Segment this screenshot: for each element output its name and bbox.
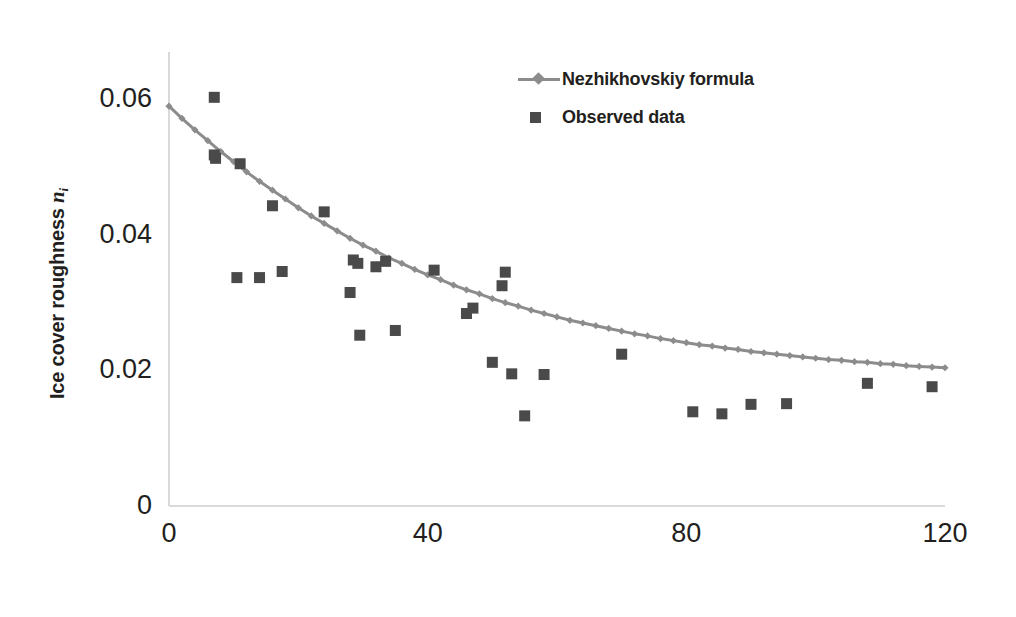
formula-diamond-marker: [515, 302, 522, 309]
legend-square-marker-icon: [516, 107, 562, 127]
observed-data-point: [616, 349, 627, 360]
formula-diamond-marker: [786, 352, 793, 359]
formula-diamond-marker: [812, 355, 819, 362]
formula-diamond-marker: [760, 349, 767, 356]
formula-curve: [169, 106, 945, 368]
formula-diamond-marker: [864, 359, 871, 366]
formula-diamond-marker: [605, 325, 612, 332]
observed-data-point: [506, 368, 517, 379]
observed-data-point: [370, 261, 381, 272]
formula-diamond-marker: [553, 313, 560, 320]
observed-data-point: [746, 399, 757, 410]
legend-item-nezhikhovskiy-formula: Nezhikhovskiy formula: [516, 60, 856, 98]
observed-data-point: [209, 92, 220, 103]
observed-data-point: [354, 330, 365, 341]
formula-diamond-marker: [941, 364, 948, 371]
formula-diamond-marker: [631, 330, 638, 337]
series-nezhikhovskiy-formula: [165, 103, 948, 372]
legend-label-nezhikhovskiy-formula: Nezhikhovskiy formula: [562, 69, 754, 90]
formula-diamond-marker: [903, 362, 910, 369]
formula-diamond-marker: [528, 307, 535, 314]
observed-data-point: [390, 325, 401, 336]
formula-diamond-marker: [644, 332, 651, 339]
formula-diamond-marker: [502, 299, 509, 306]
formula-diamond-marker: [579, 319, 586, 326]
formula-diamond-marker: [734, 346, 741, 353]
formula-diamond-marker: [825, 356, 832, 363]
observed-data-point: [210, 153, 221, 164]
observed-data-point: [716, 408, 727, 419]
observed-data-point: [487, 357, 498, 368]
observed-data-point: [231, 272, 242, 283]
observed-data-point: [927, 381, 938, 392]
observed-data-point: [467, 303, 478, 314]
series-observed-data: [209, 92, 938, 422]
legend-item-observed-data: Observed data: [516, 98, 856, 136]
formula-diamond-marker: [722, 344, 729, 351]
formula-diamond-marker: [670, 337, 677, 344]
formula-diamond-marker: [657, 335, 664, 342]
observed-data-point: [235, 158, 246, 169]
formula-diamond-marker: [696, 341, 703, 348]
observed-data-point: [781, 398, 792, 409]
formula-diamond-marker: [683, 339, 690, 346]
formula-diamond-marker: [592, 322, 599, 329]
formula-diamond-marker: [618, 328, 625, 335]
observed-data-point: [519, 410, 530, 421]
formula-diamond-marker: [916, 363, 923, 370]
observed-data-point: [267, 200, 278, 211]
observed-data-point: [352, 258, 363, 269]
observed-data-point: [862, 378, 873, 389]
chart-figure: Ice cover roughness ni 00.020.040.06 040…: [0, 0, 1016, 617]
formula-diamond-marker: [773, 351, 780, 358]
legend-label-observed-data: Observed data: [562, 107, 684, 128]
observed-data-point: [429, 265, 440, 276]
formula-diamond-marker: [799, 353, 806, 360]
observed-data-point: [319, 206, 330, 217]
formula-diamond-marker: [877, 360, 884, 367]
formula-diamond-marker: [928, 363, 935, 370]
observed-data-point: [687, 406, 698, 417]
legend-line-diamond-icon: [516, 69, 562, 89]
formula-diamond-marker: [851, 358, 858, 365]
observed-data-point: [497, 280, 508, 291]
formula-diamond-marker: [709, 342, 716, 349]
formula-diamond-marker: [540, 310, 547, 317]
formula-diamond-marker: [566, 317, 573, 324]
chart-legend: Nezhikhovskiy formula Observed data: [516, 60, 856, 136]
formula-diamond-marker: [838, 357, 845, 364]
observed-data-point: [345, 287, 356, 298]
observed-data-point: [380, 256, 391, 267]
formula-diamond-marker: [890, 361, 897, 368]
formula-diamond-marker: [747, 348, 754, 355]
plot-area: [0, 0, 1016, 617]
observed-data-point: [254, 272, 265, 283]
observed-data-point: [500, 267, 511, 278]
observed-data-point: [277, 266, 288, 277]
observed-data-point: [539, 369, 550, 380]
